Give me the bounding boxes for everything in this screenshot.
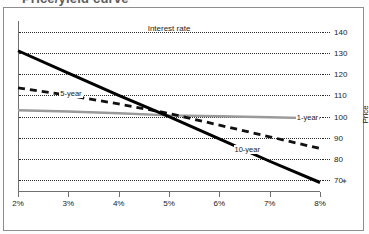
gridline (19, 159, 321, 160)
x-tick (18, 192, 19, 197)
y-tick (322, 74, 330, 75)
x-axis-label: 8% (314, 199, 326, 208)
y-axis-label: 70 (334, 176, 343, 185)
series-label-5-year: 5-year (59, 89, 82, 98)
plot-area (18, 21, 320, 191)
y-axis-label: 140 (334, 27, 347, 36)
y-tick (322, 53, 330, 54)
x-axis-label: 5% (163, 199, 175, 208)
y-axis-label: 130 (334, 48, 347, 57)
y-tick (322, 159, 330, 160)
gridline (19, 117, 321, 118)
x-tick (169, 192, 170, 197)
gridline (19, 180, 321, 181)
y-tick (322, 95, 330, 96)
x-axis-label: 7% (264, 199, 276, 208)
x-axis-label: 3% (63, 199, 75, 208)
x-axis-label: 2% (12, 199, 24, 208)
gridline (19, 74, 321, 75)
x-tick (320, 192, 321, 197)
y-tick (322, 32, 330, 33)
x-tick (68, 192, 69, 197)
gridline (19, 138, 321, 139)
y-tick (322, 180, 330, 181)
x-axis-label: 4% (113, 199, 125, 208)
x-axis-label: 6% (214, 199, 226, 208)
x-axis-title: Interest rate (148, 24, 191, 33)
chart-figure: Price/yield curve 2%3%4%5%6%7%8% Interes… (0, 0, 369, 234)
x-tick (219, 192, 220, 197)
chart-title-cropped: Price/yield curve (0, 0, 369, 7)
y-tick (322, 138, 330, 139)
y-axis-label: 110 (334, 91, 347, 100)
y-axis-label: 80 (334, 155, 343, 164)
x-axis: 2%3%4%5%6%7%8% (18, 191, 320, 192)
y-axis-label: 120 (334, 70, 347, 79)
page-title: Price/yield curve (22, 0, 129, 6)
y-tick (322, 117, 330, 118)
series-label-1-year: 1-year (296, 113, 319, 122)
y-axis-label: 90 (334, 133, 343, 142)
gridline (19, 53, 321, 54)
x-tick (270, 192, 271, 197)
x-tick (119, 192, 120, 197)
y-axis-label: 100 (334, 112, 347, 121)
y-axis-title: Price (361, 105, 369, 123)
series-label-10-year: 10-year (234, 145, 261, 154)
